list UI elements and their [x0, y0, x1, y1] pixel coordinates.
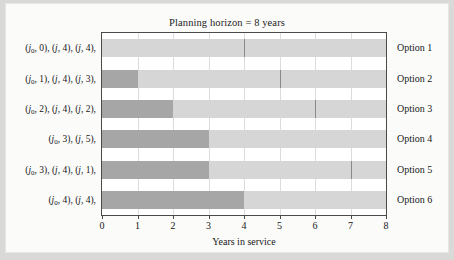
x-axis-tick-label: 2: [161, 220, 185, 231]
bar-rows: (j0, 0), (j, 4), (j, 4),Option 1(j0, 1),…: [102, 33, 386, 215]
bar-segment-light[interactable]: [209, 130, 387, 148]
bar-track: [102, 130, 386, 148]
option-label-3: Option 3: [397, 100, 432, 118]
x-axis-tick-label: 5: [268, 220, 292, 231]
bar-row[interactable]: (j0, 1), (j, 4), (j, 3),Option 2: [102, 70, 386, 88]
bar-row[interactable]: (j0, 0), (j, 4), (j, 4),Option 1: [102, 39, 386, 57]
bar-segment-light[interactable]: [315, 100, 386, 118]
x-axis-tick: [209, 215, 210, 219]
option-label-4: Option 4: [397, 130, 432, 148]
bar-segment-light[interactable]: [351, 161, 387, 179]
bar-segment-light[interactable]: [209, 161, 351, 179]
x-axis-tick-label: 0: [90, 220, 114, 231]
bar-track: [102, 70, 386, 88]
segment-divider: [315, 100, 316, 118]
row-policy-label: (j0, 0), (j, 4), (j, 4),: [0, 39, 96, 58]
bar-track: [102, 100, 386, 118]
bar-segment-light[interactable]: [102, 39, 244, 57]
bar-segment-dark[interactable]: [102, 161, 209, 179]
x-axis-tick: [280, 215, 281, 219]
bar-row[interactable]: (j0, 2), (j, 4), (j, 2),Option 3: [102, 100, 386, 118]
bar-segment-dark[interactable]: [102, 70, 138, 88]
bar-segment-dark[interactable]: [102, 130, 209, 148]
x-axis-tick: [351, 215, 352, 219]
x-axis-tick: [315, 215, 316, 219]
option-label-2: Option 2: [397, 70, 432, 88]
bar-track: [102, 161, 386, 179]
row-policy-label: (j0, 1), (j, 4), (j, 3),: [0, 70, 96, 89]
segment-divider: [280, 70, 281, 88]
row-policy-label: (j0, 2), (j, 4), (j, 2),: [0, 100, 96, 119]
segment-divider: [244, 39, 245, 57]
bar-segment-light[interactable]: [244, 191, 386, 209]
row-policy-label: (j0, 3), (j, 5),: [0, 130, 96, 149]
bar-segment-dark[interactable]: [102, 100, 173, 118]
segment-divider: [351, 161, 352, 179]
option-label-6: Option 6: [397, 191, 432, 209]
plot-area: (j0, 0), (j, 4), (j, 4),Option 1(j0, 1),…: [101, 32, 387, 216]
bar-segment-light[interactable]: [280, 70, 387, 88]
bar-segment-light[interactable]: [138, 70, 280, 88]
bar-segment-dark[interactable]: [102, 191, 244, 209]
x-axis-tick: [173, 215, 174, 219]
bar-segment-light[interactable]: [173, 100, 315, 118]
x-axis: Years in service 012345678: [102, 215, 386, 245]
bar-row[interactable]: (j0, 3), (j, 5),Option 4: [102, 130, 386, 148]
x-axis-title: Years in service: [102, 236, 386, 247]
row-policy-label: (j0, 4), (j, 4),: [0, 191, 96, 210]
x-axis-tick-label: 8: [374, 220, 398, 231]
x-axis-tick-label: 3: [197, 220, 221, 231]
x-axis-tick-label: 6: [303, 220, 327, 231]
bar-track: [102, 39, 386, 57]
bar-track: [102, 191, 386, 209]
x-axis-tick: [244, 215, 245, 219]
x-axis-tick-label: 7: [339, 220, 363, 231]
x-axis-tick-label: 4: [232, 220, 256, 231]
option-label-5: Option 5: [397, 161, 432, 179]
bar-row[interactable]: (j0, 3), (j, 4), (j, 1),Option 5: [102, 161, 386, 179]
x-axis-tick: [386, 215, 387, 219]
x-axis-tick: [138, 215, 139, 219]
x-axis-tick-label: 1: [126, 220, 150, 231]
row-policy-label: (j0, 3), (j, 4), (j, 1),: [0, 161, 96, 180]
chart-title: Planning horizon = 8 years: [6, 17, 448, 28]
figure-panel: Planning horizon = 8 years (j0, 0), (j, …: [6, 4, 448, 252]
x-axis-tick: [102, 215, 103, 219]
bar-row[interactable]: (j0, 4), (j, 4),Option 6: [102, 191, 386, 209]
option-label-1: Option 1: [397, 39, 432, 57]
bar-segment-light[interactable]: [244, 39, 386, 57]
